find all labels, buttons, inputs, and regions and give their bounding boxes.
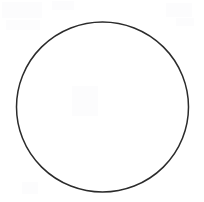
circle-figure [0, 0, 204, 202]
circle-outline-shape [17, 22, 189, 192]
figure-canvas [0, 0, 204, 202]
